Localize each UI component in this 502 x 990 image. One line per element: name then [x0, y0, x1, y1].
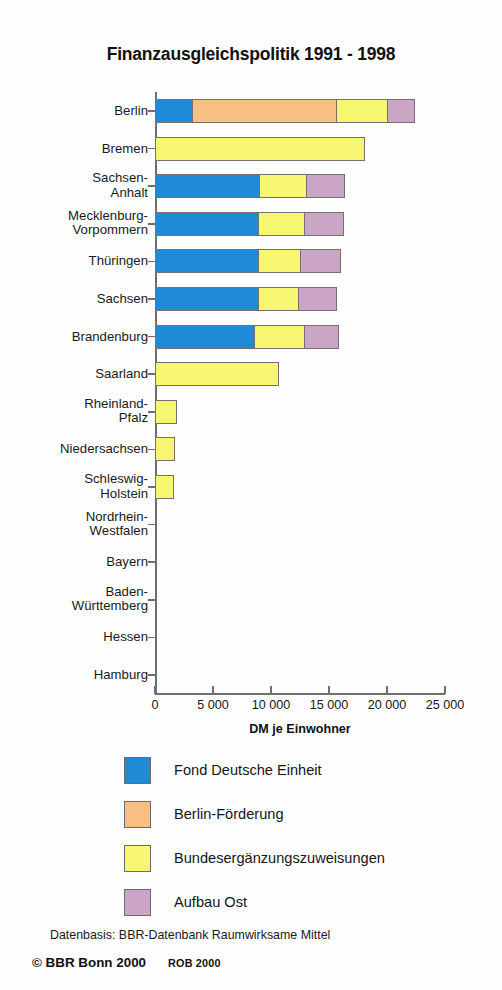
legend-label: Fond Deutsche Einheit — [174, 762, 322, 778]
bar-segment — [155, 400, 177, 424]
bar-segment — [155, 212, 259, 236]
bar-row: Sachsen — [0, 280, 502, 318]
bar-row: Rheinland- Pfalz — [0, 393, 502, 431]
chart-page: Finanzausgleichspolitik 1991 - 1998 Berl… — [0, 0, 502, 990]
bar-segment — [155, 287, 259, 311]
source-note: Datenbasis: BBR-Datenbank Raumwirksame M… — [50, 928, 330, 942]
stacked-bar — [155, 325, 339, 349]
bar-row: Niedersachsen — [0, 430, 502, 468]
legend-item[interactable]: Fond Deutsche Einheit — [124, 748, 385, 792]
category-label: Niedersachsen — [0, 442, 148, 457]
bar-row: Berlin — [0, 92, 502, 130]
bar-segment — [155, 99, 193, 123]
bar-segment — [387, 99, 415, 123]
stacked-bar — [155, 437, 175, 461]
bar-row: Bremen — [0, 130, 502, 168]
x-axis-tick — [270, 686, 272, 694]
y-axis-tick — [148, 599, 156, 601]
category-label: Thüringen — [0, 254, 148, 269]
legend-item[interactable]: Bundesergänzungszuweisungen — [124, 836, 385, 880]
bar-row: Bayern — [0, 543, 502, 581]
legend-item[interactable]: Aufbau Ost — [124, 880, 385, 924]
legend-item[interactable]: Berlin-Förderung — [124, 792, 385, 836]
y-axis-tick — [148, 561, 156, 563]
stacked-bar — [155, 174, 345, 198]
legend-color-swatch — [124, 889, 151, 916]
bar-segment — [254, 325, 305, 349]
bar-segment — [258, 212, 305, 236]
x-axis-tick — [386, 686, 388, 694]
x-axis-tick-label: 20 000 — [368, 698, 407, 712]
category-label: Bayern — [0, 555, 148, 570]
bar-segment — [258, 249, 302, 273]
bar-segment — [300, 249, 340, 273]
category-label: Sachsen- Anhalt — [0, 172, 148, 201]
bar-row: Sachsen- Anhalt — [0, 167, 502, 205]
bar-segment — [298, 287, 337, 311]
stacked-bar — [155, 99, 415, 123]
category-label: Bremen — [0, 141, 148, 156]
bar-segment — [336, 99, 388, 123]
legend-label: Aufbau Ost — [174, 894, 247, 910]
bar-segment — [192, 99, 337, 123]
stacked-bar — [155, 249, 341, 273]
x-axis-tick-label: 10 000 — [252, 698, 291, 712]
category-label: Mecklenburg- Vorpommern — [0, 209, 148, 238]
category-label: Baden- Württemberg — [0, 585, 148, 614]
x-axis-tick-label: 5 000 — [197, 698, 229, 712]
category-label: Hamburg — [0, 668, 148, 683]
plot-area: BerlinBremenSachsen- AnhaltMecklenburg- … — [0, 0, 502, 700]
y-axis-tick — [148, 524, 156, 526]
stacked-bar — [155, 362, 279, 386]
bar-segment — [155, 325, 255, 349]
x-axis-tick-label: 0 — [151, 698, 158, 712]
legend-color-swatch — [124, 801, 151, 828]
bar-row: Schleswig- Holstein — [0, 468, 502, 506]
stacked-bar — [155, 287, 337, 311]
x-axis-tick — [212, 686, 214, 694]
bar-segment — [304, 325, 340, 349]
category-label: Saarland — [0, 367, 148, 382]
category-label: Nordrhein- Westfalen — [0, 510, 148, 539]
y-axis-tick — [148, 637, 156, 639]
legend-label: Berlin-Förderung — [174, 806, 284, 822]
bar-segment — [155, 437, 175, 461]
bar-row: Brandenburg — [0, 318, 502, 356]
category-label: Brandenburg — [0, 329, 148, 344]
bar-segment — [258, 287, 299, 311]
bar-segment — [155, 249, 259, 273]
stacked-bar — [155, 475, 174, 499]
bar-row: Saarland — [0, 355, 502, 393]
bar-row: Hamburg — [0, 656, 502, 694]
bar-segment — [259, 174, 307, 198]
category-label: Schleswig- Holstein — [0, 472, 148, 501]
x-axis-tick — [444, 686, 446, 694]
bar-row: Mecklenburg- Vorpommern — [0, 205, 502, 243]
legend-color-swatch — [124, 845, 151, 872]
bar-segment — [306, 174, 345, 198]
bar-row: Hessen — [0, 618, 502, 656]
report-code: ROB 2000 — [168, 957, 221, 969]
bar-segment — [304, 212, 344, 236]
x-axis-tick — [328, 686, 330, 694]
chart-legend: Fond Deutsche EinheitBerlin-FörderungBun… — [124, 748, 385, 924]
copyright-text: © BBR Bonn 2000 — [32, 955, 146, 970]
legend-color-swatch — [124, 757, 151, 784]
category-label: Hessen — [0, 630, 148, 645]
bar-segment — [155, 475, 174, 499]
category-label: Berlin — [0, 104, 148, 119]
stacked-bar — [155, 212, 344, 236]
bar-row: Baden- Württemberg — [0, 581, 502, 619]
bar-row: Nordrhein- Westfalen — [0, 506, 502, 544]
bar-segment — [155, 174, 260, 198]
category-label: Sachsen — [0, 292, 148, 307]
bar-row: Thüringen — [0, 242, 502, 280]
y-axis-tick — [148, 674, 156, 676]
x-axis-tick-label: 15 000 — [310, 698, 349, 712]
x-axis-tick — [154, 686, 156, 694]
stacked-bar — [155, 400, 177, 424]
bar-segment — [155, 137, 365, 161]
bar-segment — [155, 362, 279, 386]
category-label: Rheinland- Pfalz — [0, 397, 148, 426]
stacked-bar — [155, 137, 365, 161]
